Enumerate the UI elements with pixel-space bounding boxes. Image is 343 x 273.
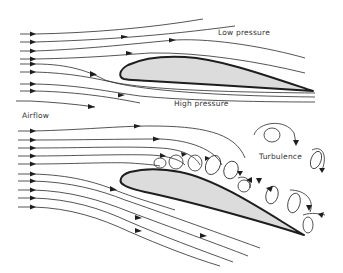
airflow-label: Airflow [22,111,49,120]
airfoil-diagram: Low pressure High pressure Airflow Turbu… [0,0,343,273]
diagram-svg [0,0,343,273]
bottom-airfoil [121,169,304,235]
low-pressure-label: Low pressure [218,28,270,37]
turbulence-label: Turbulence [259,152,302,161]
high-pressure-label: High pressure [174,99,229,108]
top-airfoil [120,57,313,91]
